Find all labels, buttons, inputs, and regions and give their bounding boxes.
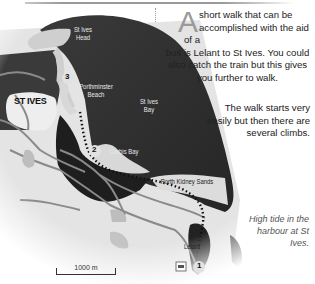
- label-porthminster-beach: PorthminsterBeach: [77, 83, 114, 99]
- label-carbis-bay: Carbis Bay: [107, 148, 141, 156]
- label-st-ives-head: St IvesHead: [70, 26, 96, 42]
- scale-bar: 1000 m: [56, 268, 116, 275]
- walk-description: The walk starts very easily but then the…: [200, 102, 310, 140]
- label-st-ives-bay: St IvesBay: [136, 98, 162, 114]
- drop-cap: A: [178, 10, 198, 34]
- car-park-icon: [176, 262, 186, 271]
- waypoint-2: 2: [92, 145, 96, 154]
- label-st-ives-town: ST IVES: [14, 96, 46, 106]
- waypoint-3: 3: [65, 72, 69, 81]
- label-porth-kidney-sands: Porth Kidney Sands: [160, 178, 214, 186]
- intro-paragraph: A short walk that can be accomplished wi…: [182, 9, 315, 84]
- photo-caption: High tide in the harbour at St Ives.: [244, 213, 309, 249]
- waypoint-1: 1: [197, 261, 201, 270]
- label-lelant: Lelant: [182, 243, 202, 251]
